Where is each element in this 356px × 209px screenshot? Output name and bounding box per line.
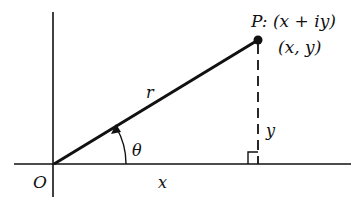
x-label: x [158,173,167,192]
point-coords-label: (x, y) [278,37,321,57]
radius-line [54,40,258,164]
angle-label: θ [132,141,142,160]
right-angle-marker [248,152,258,164]
complex-plane-diagram: O x r θ y P: (x + iy) (x, y) [0,0,356,209]
radius-label: r [146,83,155,102]
point-p-dot [254,36,263,45]
origin-label: O [33,172,47,192]
point-label: P: (x + iy) [250,11,336,31]
y-label: y [265,121,276,140]
